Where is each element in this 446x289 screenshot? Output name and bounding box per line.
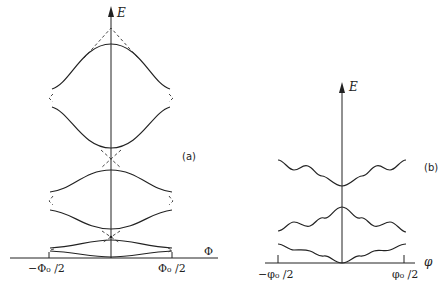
y-axis-label-b: E bbox=[348, 80, 358, 94]
panel-tag-b: (b) bbox=[424, 162, 438, 173]
tick-label-right-b: φ₀ /2 bbox=[392, 268, 418, 281]
tick-label-left-a: −Φ₀ /2 bbox=[28, 262, 65, 275]
tick-label-right-a: Φ₀ /2 bbox=[158, 262, 186, 275]
panel-a: E Φ −Φ₀ /2 Φ₀ /2 (a) bbox=[10, 6, 218, 275]
panel-b: E φ −φ₀ /2 φ₀ /2 (b) bbox=[258, 80, 438, 281]
crossing-dot bbox=[110, 236, 113, 239]
panel-tag-a: (a) bbox=[182, 151, 196, 162]
y-axis-arrow-icon bbox=[339, 82, 345, 93]
x-axis-label-a: Φ bbox=[204, 245, 213, 258]
y-axis-label-a: E bbox=[116, 6, 126, 20]
band3-dashed-left bbox=[50, 249, 54, 250]
tick-label-left-b: −φ₀ /2 bbox=[258, 268, 294, 281]
x-axis-label-b: φ bbox=[424, 255, 433, 269]
band1-dashed-right bbox=[169, 94, 173, 102]
band2-dashed-right bbox=[169, 196, 173, 205]
y-axis-arrow-icon bbox=[108, 6, 114, 17]
figure: E Φ −Φ₀ /2 Φ₀ /2 (a) E φ −φ₀ /2 φ₀ /2 (b… bbox=[0, 0, 446, 289]
band1-dashed-left bbox=[49, 94, 53, 102]
band2-dashed-left bbox=[49, 196, 53, 205]
